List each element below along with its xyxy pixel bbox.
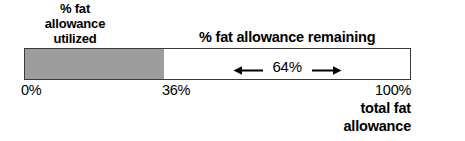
total-allowance-caption: total fat allowance xyxy=(291,100,411,135)
utilized-caption: % fat allowance utilized xyxy=(16,1,134,47)
remaining-caption: % fat allowance remaining xyxy=(163,29,411,46)
allowance-bar-track xyxy=(24,48,411,80)
total-allowance-caption-line-1: total fat xyxy=(291,100,411,118)
tick-label-start: 0% xyxy=(21,81,41,99)
utilized-caption-line-1: % fat xyxy=(16,1,134,16)
tick-label-middle: 36% xyxy=(162,81,190,99)
utilized-caption-line-2: allowance xyxy=(16,16,134,31)
tick-label-end: 100% xyxy=(362,81,411,99)
allowance-bar-fill-utilized xyxy=(25,49,164,79)
fat-allowance-figure: % fat allowance utilized % fat allowance… xyxy=(0,0,465,141)
total-allowance-caption-line-2: allowance xyxy=(291,118,411,136)
utilized-caption-line-3: utilized xyxy=(16,31,134,46)
